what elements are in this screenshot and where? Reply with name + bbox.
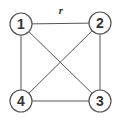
node-1: 1 xyxy=(10,13,32,35)
node-label: 2 xyxy=(96,15,104,31)
graph-diagram: 1234 r xyxy=(0,0,120,120)
node-3: 3 xyxy=(89,90,111,112)
node-label: 1 xyxy=(17,16,25,32)
edge-label-r: r xyxy=(59,4,64,16)
node-label: 4 xyxy=(17,93,25,109)
node-4: 4 xyxy=(10,90,32,112)
node-label: 3 xyxy=(96,93,104,109)
edge-1-2 xyxy=(21,23,100,24)
node-2: 2 xyxy=(89,12,111,34)
graph-svg: 1234 r xyxy=(0,0,120,120)
